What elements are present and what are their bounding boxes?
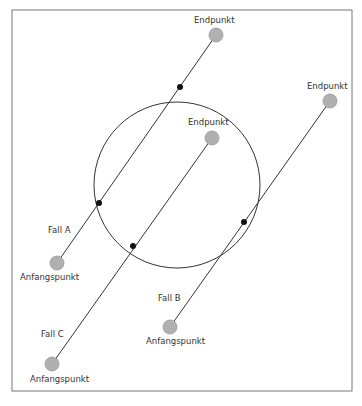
intersection-point [241,219,247,225]
case-label: Fall C [41,329,64,339]
start-point [50,256,64,270]
start-point-label: Anfangspunkt [30,374,90,384]
intersection-point [96,200,102,206]
trajectory-line [170,101,330,327]
start-point [45,357,59,371]
cases-layer: Fall AAnfangspunktEndpunktFall BAnfangsp… [20,15,348,384]
start-point-label: Anfangspunkt [20,272,80,282]
end-point [209,28,223,42]
end-point [205,131,219,145]
case-label: Fall A [48,225,71,235]
trajectory-line [52,138,212,364]
intersection-point [177,84,183,90]
end-point-label: Endpunkt [188,117,229,127]
case-label: Fall B [158,293,181,303]
case-b: Fall BAnfangspunktEndpunkt [146,81,348,346]
case-a: Fall AAnfangspunktEndpunkt [20,15,235,282]
end-point-label: Endpunkt [307,81,348,91]
end-point [323,94,337,108]
end-point-label: Endpunkt [194,15,235,25]
intersection-point [130,243,136,249]
trajectory-line [57,35,216,263]
diagram-canvas: Fall AAnfangspunktEndpunktFall BAnfangsp… [0,0,362,406]
start-point-label: Anfangspunkt [146,336,206,346]
start-point [163,320,177,334]
circle-region [94,102,260,268]
